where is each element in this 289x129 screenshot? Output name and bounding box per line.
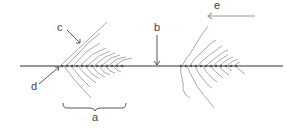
arrow-c-icon [67,30,80,43]
right-wake [180,26,245,108]
label-a-group: a [63,103,126,123]
label-a: a [92,111,99,123]
label-e: e [214,0,220,11]
label-b: b [154,21,160,33]
wake-diagram: c d a b e [0,0,289,129]
label-d-group: d [31,67,59,92]
label-e-group: e [208,0,255,19]
label-d: d [31,80,37,92]
label-c: c [57,21,63,33]
brace-icon [63,103,126,111]
label-b-group: b [154,21,160,65]
label-c-group: c [57,21,80,43]
arrow-d-icon [39,67,59,84]
